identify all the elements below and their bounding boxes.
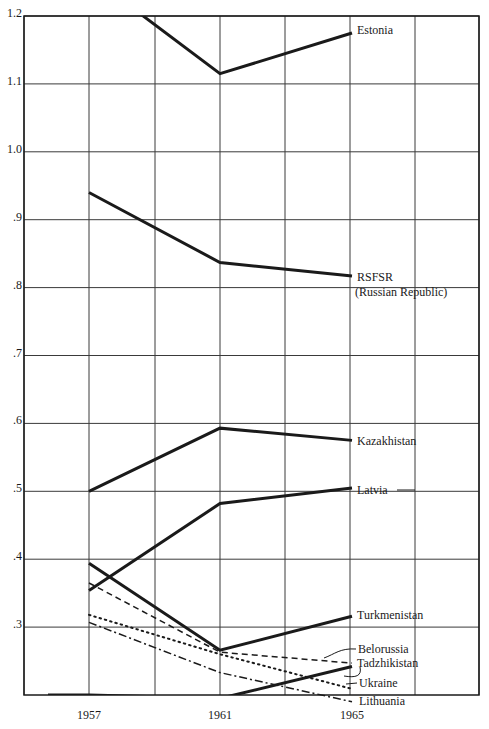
x-tick-label: 1961 (208, 708, 232, 722)
label-kazakhistan: Kazakhistan (357, 434, 416, 448)
label-belorussia: Belorussia (358, 642, 409, 656)
x-tick-label: 1957 (77, 708, 101, 722)
y-tick-label: .3 (13, 617, 22, 631)
label-tadzhikistan: Tadzhikistan (357, 656, 418, 670)
y-tick-label: 1.2 (7, 6, 22, 20)
y-tick-label: 1.1 (7, 74, 22, 88)
grid-lines (24, 16, 479, 695)
x-tick-label: 1965 (340, 708, 364, 722)
y-tick-label: .4 (13, 549, 22, 563)
y-tick-label: .9 (13, 210, 22, 224)
arrow-belorussia (324, 649, 356, 658)
label-ukraine: Ukraine (359, 676, 398, 690)
line-chart: 1.21.11.0.9.8.7.6.5.4.3 195719611965 Est… (0, 0, 489, 729)
x-axis-ticks: 195719611965 (77, 708, 364, 722)
series-lines (48, 0, 352, 698)
label-lithuania: Lithuania (359, 694, 406, 708)
y-tick-label: .8 (13, 278, 22, 292)
y-axis-ticks: 1.21.11.0.9.8.7.6.5.4.3 (7, 6, 22, 631)
label-turkmenistan: Turkmenistan (357, 608, 423, 622)
label-rsfsr: RSFSR (357, 270, 393, 284)
y-tick-label: .6 (13, 413, 22, 427)
series-labels: Estonia RSFSR (Russian Republic) Kazakhi… (355, 23, 447, 708)
arrow-ukraine (346, 683, 357, 684)
label-rsfsr-sub: (Russian Republic) (355, 285, 447, 299)
label-latvia: Latvia (357, 483, 388, 497)
y-tick-label: .7 (13, 346, 22, 360)
series-line-tadzhikistan (48, 666, 352, 698)
y-tick-label: .5 (13, 481, 22, 495)
label-estonia: Estonia (357, 23, 394, 37)
y-tick-label: 1.0 (7, 142, 22, 156)
